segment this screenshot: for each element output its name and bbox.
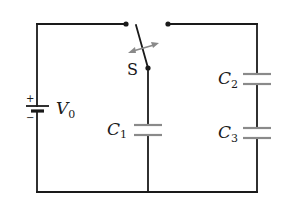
capacitor-c3: C3: [218, 122, 271, 145]
battery-plus-sign: +: [26, 93, 34, 104]
battery-symbol: + − V0: [26, 93, 75, 123]
circuit-diagram: + − V0 S C1 C2: [0, 0, 292, 215]
capacitor-c1: C1: [107, 119, 162, 141]
switch-symbol: S: [123, 21, 170, 79]
c3-label: C3: [218, 122, 238, 145]
right-branch-wires: [168, 24, 257, 192]
c1-label: C1: [107, 119, 127, 141]
capacitor-c2: C2: [218, 68, 271, 91]
switch-label: S: [127, 60, 138, 79]
battery-minus-sign: −: [26, 112, 34, 123]
switch-left-terminal: [123, 21, 128, 26]
switch-right-terminal: [165, 21, 170, 26]
c2-label: C2: [218, 68, 238, 91]
battery-label: V0: [56, 98, 75, 121]
